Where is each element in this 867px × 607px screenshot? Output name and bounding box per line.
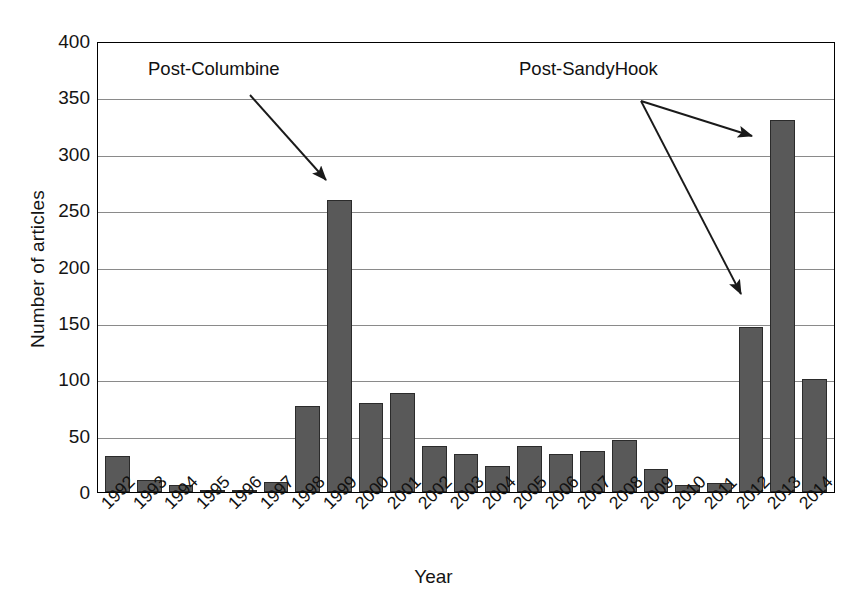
y-tick-label: 300 — [22, 145, 90, 164]
bar-slot — [545, 43, 577, 492]
y-tick-label: 50 — [22, 427, 90, 446]
bar-slot — [419, 43, 451, 492]
bar-slot — [387, 43, 419, 492]
y-tick-label: 0 — [22, 483, 90, 502]
bar-slot — [355, 43, 387, 492]
plot-area — [97, 42, 835, 493]
bar-chart: Number of articles 050100150200250300350… — [0, 0, 867, 607]
bar-slot — [703, 43, 735, 492]
bar-1999 — [327, 200, 352, 492]
y-axis-tick-labels: 050100150200250300350400 — [22, 0, 90, 607]
y-tick-label: 200 — [22, 258, 90, 277]
bar-2013 — [770, 120, 795, 492]
y-tick-label: 100 — [22, 370, 90, 389]
x-axis-tick-labels: 1992199319941995199619971998199920002001… — [97, 493, 835, 563]
bar-slot — [450, 43, 482, 492]
bar-2012 — [739, 327, 764, 492]
bar-slot — [165, 43, 197, 492]
bar-slot — [292, 43, 324, 492]
bar-series — [98, 43, 834, 492]
bar-slot — [229, 43, 261, 492]
y-tick-label: 400 — [22, 32, 90, 51]
bar-slot — [798, 43, 830, 492]
x-axis-title: Year — [0, 566, 867, 588]
y-tick-label: 350 — [22, 88, 90, 107]
bar-slot — [324, 43, 356, 492]
bar-slot — [197, 43, 229, 492]
bar-slot — [260, 43, 292, 492]
bar-slot — [514, 43, 546, 492]
y-tick-label: 250 — [22, 201, 90, 220]
bar-slot — [577, 43, 609, 492]
bar-slot — [134, 43, 166, 492]
annotation-post-columbine-label: Post-Columbine — [148, 58, 280, 80]
bar-slot — [767, 43, 799, 492]
bar-slot — [102, 43, 134, 492]
bar-slot — [672, 43, 704, 492]
annotation-post-sandyhook-label: Post-SandyHook — [519, 58, 658, 80]
bar-slot — [609, 43, 641, 492]
y-tick-label: 150 — [22, 314, 90, 333]
bar-slot — [482, 43, 514, 492]
bar-slot — [640, 43, 672, 492]
bar-slot — [735, 43, 767, 492]
